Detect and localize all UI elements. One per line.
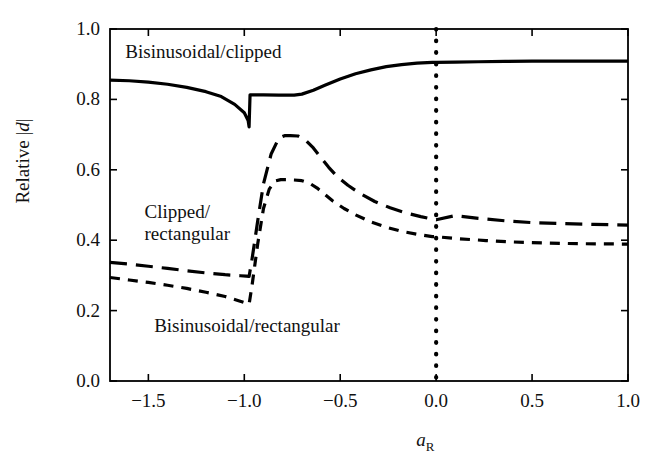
x-tick-label: 0.5 — [492, 391, 572, 410]
x-tick-label: 1.0 — [588, 391, 665, 410]
x-tick-label: −1.0 — [204, 391, 284, 410]
y-tick-label: 1.0 — [20, 19, 100, 38]
y-axis-title: Relative |d| — [12, 76, 34, 246]
annotation-bisinusoidal-rectangular: Bisinusoidal/rectangular — [154, 315, 340, 337]
y-tick-label: 0.2 — [20, 301, 100, 320]
series-line-0 — [110, 61, 628, 127]
x-tick-label: −1.5 — [108, 391, 188, 410]
x-axis-variable: a — [416, 429, 426, 450]
x-tick-label: 0.0 — [396, 391, 476, 410]
y-axis-title-text: Relative |d| — [12, 118, 33, 203]
annotation-clipped-rectangular: Clipped/ rectangular — [145, 201, 230, 245]
x-tick-label: −0.5 — [300, 391, 380, 410]
x-axis-variable-subscript: R — [426, 439, 435, 454]
annotation-bisinusoidal-clipped: Bisinusoidal/clipped — [125, 41, 281, 63]
chart-figure: −1.5−1.0−0.50.00.51.0 0.00.20.40.60.81.0… — [0, 0, 665, 470]
y-tick-label: 0.0 — [20, 371, 100, 390]
y-axis-variable: d — [12, 122, 33, 132]
x-axis-title: aR — [416, 429, 434, 455]
data-series-group — [110, 61, 628, 304]
